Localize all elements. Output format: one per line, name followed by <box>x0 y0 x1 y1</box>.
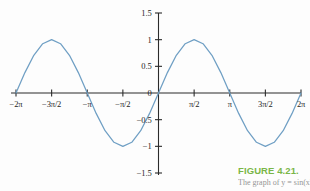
figure-caption-description: The graph of y = sin(x). <box>238 178 310 187</box>
y-tick-label-6: −1.5 <box>0 168 152 178</box>
y-tick-label-1: 1 <box>0 35 152 45</box>
y-tick-label-0: 1.5 <box>0 8 152 18</box>
y-tick-label-3: 0 <box>0 88 152 98</box>
figure-container: −2π−3π/2−π−π/2π/2π3π/22π 1.510.50−0.5−1−… <box>0 0 310 191</box>
y-tick-label-5: −1 <box>0 141 152 151</box>
y-tick-label-2: 0.5 <box>0 61 152 71</box>
x-tick-label-1: −3π/2 <box>42 99 61 109</box>
figure-caption-title: FIGURE 4.21. <box>238 165 310 176</box>
x-tick-label-5: π <box>228 99 232 109</box>
x-tick-label-6: 3π/2 <box>258 99 273 109</box>
y-tick-label-4: −0.5 <box>0 115 152 125</box>
x-tick-label-7: 2π <box>297 99 305 109</box>
figure-caption: FIGURE 4.21. The graph of y = sin(x). <box>238 165 310 187</box>
x-tick-label-4: π/2 <box>189 99 199 109</box>
x-tick-label-2: −π <box>83 99 92 109</box>
x-tick-label-0: −2π <box>10 99 23 109</box>
x-tick-label-3: −π/2 <box>115 99 130 109</box>
